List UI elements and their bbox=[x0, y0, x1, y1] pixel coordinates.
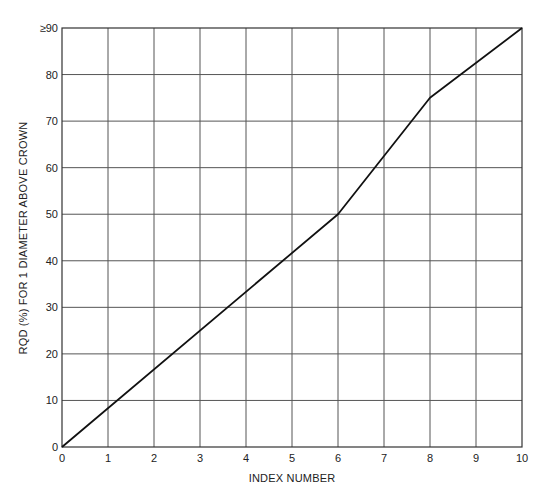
x-tick-label: 9 bbox=[473, 452, 479, 464]
x-axis-ticks: 012345678910 bbox=[59, 452, 528, 464]
x-tick-label: 1 bbox=[105, 452, 111, 464]
x-tick-label: 8 bbox=[427, 452, 433, 464]
x-tick-label: 3 bbox=[197, 452, 203, 464]
rqd-chart: 012345678910 01020304050607080≥90 INDEX … bbox=[0, 0, 542, 498]
y-tick-label: ≥90 bbox=[40, 22, 58, 34]
y-tick-label: 40 bbox=[46, 255, 58, 267]
y-tick-label: 30 bbox=[46, 301, 58, 313]
x-tick-label: 10 bbox=[516, 452, 528, 464]
y-tick-label: 20 bbox=[46, 348, 58, 360]
y-tick-label: 80 bbox=[46, 69, 58, 81]
x-tick-label: 0 bbox=[59, 452, 65, 464]
x-tick-label: 4 bbox=[243, 452, 249, 464]
y-tick-label: 0 bbox=[52, 441, 58, 453]
x-tick-label: 5 bbox=[289, 452, 295, 464]
y-axis-title: RQD (%) FOR 1 DIAMETER ABOVE CROWN bbox=[17, 122, 29, 355]
y-axis-ticks: 01020304050607080≥90 bbox=[40, 22, 58, 453]
y-tick-label: 50 bbox=[46, 208, 58, 220]
x-tick-label: 2 bbox=[151, 452, 157, 464]
y-tick-label: 70 bbox=[46, 115, 58, 127]
x-tick-label: 7 bbox=[381, 452, 387, 464]
x-axis-title: INDEX NUMBER bbox=[249, 472, 336, 484]
y-tick-label: 60 bbox=[46, 162, 58, 174]
grid-lines bbox=[62, 28, 522, 447]
y-tick-label: 10 bbox=[46, 394, 58, 406]
x-tick-label: 6 bbox=[335, 452, 341, 464]
